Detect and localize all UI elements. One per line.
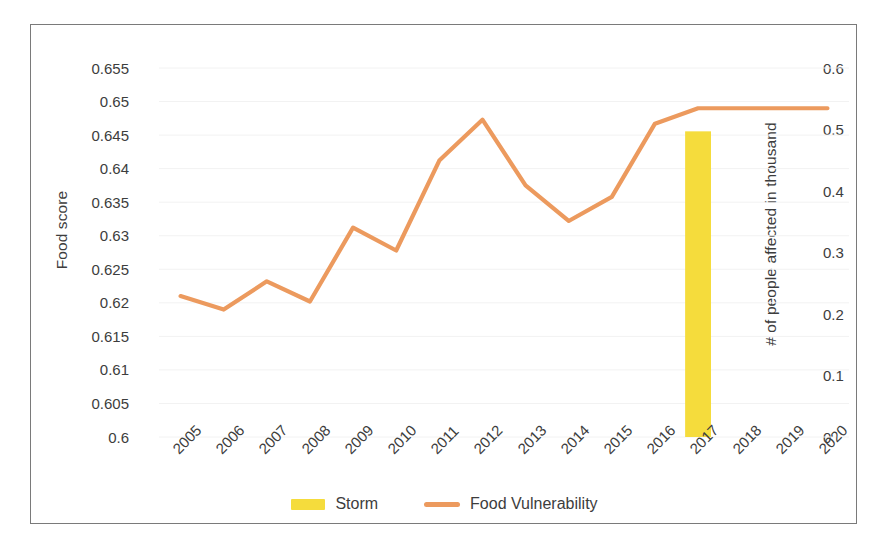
y-axis-left-tick-label: 0.63 — [100, 228, 129, 243]
y-axis-left-tick-label: 0.62 — [100, 295, 129, 310]
y-axis-left-tick-label: 0.645 — [91, 128, 129, 143]
legend-label: Storm — [335, 495, 378, 513]
chart-legend: StormFood Vulnerability — [31, 495, 858, 513]
plot-area — [159, 68, 849, 437]
chart-root: Food score # of people affected in thous… — [0, 0, 886, 550]
storm-bars — [685, 131, 711, 437]
y-axis-left-tick-label: 0.61 — [100, 362, 129, 377]
legend-bar-swatch-icon — [291, 499, 325, 510]
y-axis-left-tick-label: 0.655 — [91, 61, 129, 76]
figure-frame: Food score # of people affected in thous… — [30, 24, 857, 524]
y-axis-left-tick-label: 0.65 — [100, 94, 129, 109]
legend-item[interactable]: Food Vulnerability — [424, 495, 597, 513]
y-axis-left-ticks: 0.60.6050.610.6150.620.6250.630.6350.640… — [67, 25, 129, 523]
y-axis-left-tick-label: 0.6 — [108, 430, 129, 445]
food-vulnerability-line — [181, 108, 828, 309]
legend-line-swatch-icon — [424, 502, 460, 507]
y-axis-left-tick-label: 0.64 — [100, 161, 129, 176]
legend-item[interactable]: Storm — [291, 495, 378, 513]
y-axis-left-tick-label: 0.605 — [91, 396, 129, 411]
plot-svg — [159, 68, 849, 437]
storm-bar — [685, 131, 711, 437]
y-axis-left-tick-label: 0.625 — [91, 262, 129, 277]
legend-label: Food Vulnerability — [470, 495, 597, 513]
y-axis-left-tick-label: 0.615 — [91, 329, 129, 344]
gridlines — [159, 68, 849, 437]
food-vulnerability-polyline — [181, 108, 828, 309]
y-axis-left-tick-label: 0.635 — [91, 195, 129, 210]
